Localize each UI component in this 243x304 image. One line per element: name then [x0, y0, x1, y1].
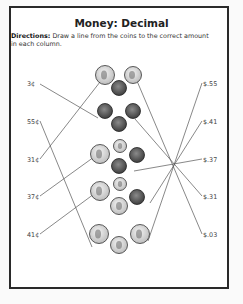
penny-coin-icon — [112, 81, 127, 96]
coin-group-2 — [98, 104, 141, 132]
left-amount-3: 31¢ — [27, 156, 39, 164]
left-amount-5: 41¢ — [27, 231, 39, 239]
line-41c — [40, 194, 94, 234]
line-55d — [148, 83, 202, 241]
line-37c — [40, 157, 94, 196]
right-amount-1: $.55 — [203, 80, 217, 88]
left-amount-1: 3¢ — [27, 80, 35, 88]
line-41d — [150, 121, 202, 203]
right-amount-2: $.41 — [203, 118, 217, 126]
right-amount-4: $.31 — [203, 193, 217, 201]
penny-coin-icon — [112, 117, 127, 132]
left-amount-2: 55¢ — [27, 118, 39, 126]
left-amount-4: 37¢ — [27, 193, 39, 201]
line-37d — [134, 159, 202, 171]
penny-coin-icon — [130, 148, 145, 163]
penny-coin-icon — [98, 104, 113, 119]
line-03d — [137, 81, 202, 234]
coin-group-1 — [96, 66, 142, 96]
right-amount-5: $.03 — [203, 231, 217, 239]
line-3c — [40, 84, 98, 118]
penny-coin-icon — [126, 104, 141, 119]
coin-group-5 — [90, 225, 150, 254]
line-31d — [135, 119, 202, 196]
penny-coin-icon — [112, 159, 127, 174]
right-amount-3: $.37 — [203, 156, 217, 164]
penny-coin-icon — [130, 190, 145, 205]
coin-diagram — [0, 0, 243, 304]
line-31c — [40, 82, 100, 159]
